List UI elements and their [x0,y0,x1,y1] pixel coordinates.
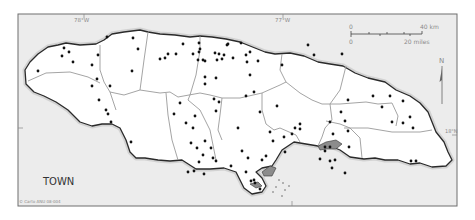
town-dot [249,74,252,77]
scale-km-start: 0 [349,23,353,30]
lon-label-77w: 77°W [275,17,291,23]
town-dot [410,160,413,163]
town-dot [215,77,218,80]
town-dot [132,37,135,40]
town-dot [254,182,257,185]
town-dot [179,102,182,105]
town-dot [344,172,347,175]
town-dot [253,91,256,94]
town-dot [194,115,197,118]
town-dot [257,60,260,63]
town-dot [324,150,327,153]
town-dot [215,110,218,113]
scale-km-end: 40 km [420,23,439,30]
town-dot [372,95,375,98]
town-dot [63,47,66,50]
town-dot [204,76,207,79]
town-dot [204,140,207,143]
town-dot [213,98,216,101]
town-dot [283,136,286,139]
town-dot [212,157,215,160]
town-dot [216,59,219,62]
town-dot [164,57,167,60]
town-dot [97,54,100,57]
town-dot [91,64,94,67]
town-dot [215,160,218,163]
town-dot [249,51,252,54]
north-label: N [439,57,444,65]
town-dot [246,61,249,64]
town-dot [202,154,205,157]
town-dot [187,171,190,174]
town-dot [218,101,221,104]
town-dot [319,158,322,161]
town-dot [185,122,188,125]
town-dot [130,141,133,144]
town-dot [193,170,196,173]
town-dot [253,179,256,182]
lat-label-18n: 18°N [445,128,458,134]
town-dot [329,121,332,124]
town-dot [203,173,206,176]
town-dot [105,109,108,112]
town-dot [204,60,207,63]
town-dot [245,95,248,98]
town-dot [227,43,230,46]
town-dot [245,54,248,57]
town-dot [329,160,332,163]
town-dot [299,123,302,126]
town-dot [37,70,40,73]
town-dot [232,57,235,60]
town-dot [269,131,272,134]
town-dot [237,127,240,130]
town-dot [261,159,264,162]
town-dot [402,122,405,125]
town-dot [245,171,248,174]
town-dot [281,64,284,67]
town-dot [241,150,244,153]
town-dot [98,99,101,102]
town-dot [272,140,275,143]
town-dot [137,48,140,51]
town-dot [409,116,412,119]
lon-label-78w: 78°W [74,17,90,23]
town-dot [389,95,392,98]
town-dot [61,55,64,58]
town-dot [159,58,162,61]
town-dot [250,180,253,183]
town-dot [341,53,344,56]
town-dot [230,165,233,168]
town-dot [334,159,337,162]
town-dot [106,36,109,39]
town-dot [96,78,99,81]
town-dot [331,167,334,170]
town-dot [221,58,224,61]
town-dot [196,147,199,150]
town-dot [131,70,134,73]
town-dot [198,51,201,54]
town-dot [199,48,202,51]
town-dot [91,85,94,88]
town-dot [173,113,176,116]
town-dot [347,99,350,102]
town-dot [198,42,201,45]
town-dot [192,53,195,56]
town-dot [109,85,112,88]
town-dot [259,188,262,191]
town-dot [107,113,110,116]
town-dot [204,83,207,86]
map-title: TOWN [42,176,74,187]
town-dot [190,142,193,145]
town-dot [313,54,316,57]
town-dot [412,127,415,130]
town-dot [284,151,287,154]
town-dot [240,42,243,45]
town-dot [198,161,201,164]
town-dot [210,147,213,150]
town-dot [381,106,384,109]
town-dot [415,160,418,163]
town-dot [167,53,170,56]
town-dot [265,155,268,158]
town-dot [332,133,335,136]
town-dot [214,52,217,55]
